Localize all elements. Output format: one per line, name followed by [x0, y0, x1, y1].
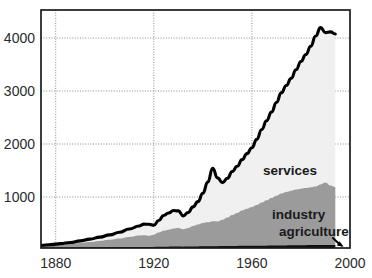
- x-tick-label: 1880: [40, 255, 71, 271]
- series-label-industry: industry: [272, 207, 326, 222]
- x-tick-label: 2000: [334, 255, 365, 271]
- y-tick-label: 1000: [4, 189, 35, 205]
- sector-share-area-chart: 1000200030004000 1880192019602000 servic…: [0, 0, 372, 278]
- series-label-agriculture: agriculture: [279, 224, 349, 239]
- x-tick-label: 1920: [138, 255, 169, 271]
- chart-container: 1000200030004000 1880192019602000 servic…: [0, 0, 372, 278]
- series-label-services: services: [263, 163, 317, 178]
- x-tick-label: 1960: [236, 255, 267, 271]
- y-tick-label: 2000: [4, 136, 35, 152]
- y-tick-label: 3000: [4, 83, 35, 99]
- y-tick-label: 4000: [4, 30, 35, 46]
